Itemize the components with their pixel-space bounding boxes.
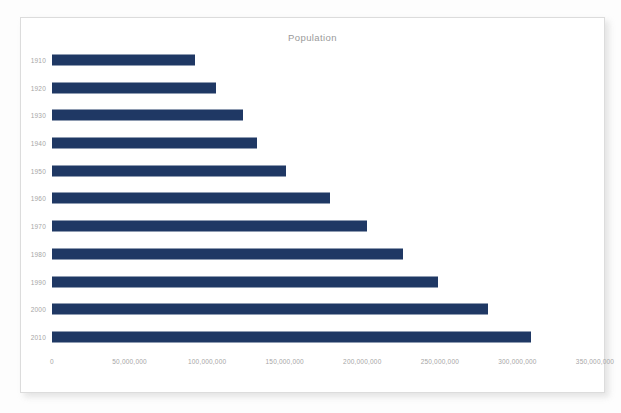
- y-axis-tick-label: 1990: [31, 278, 46, 285]
- bar[interactable]: [52, 82, 216, 93]
- y-axis-tick-label: 2000: [31, 306, 46, 313]
- x-axis-tick-label: 200,000,000: [343, 358, 381, 365]
- bar-row: 1980: [52, 240, 595, 268]
- bar-row: 1960: [52, 185, 595, 213]
- bar-row: 2010: [52, 323, 595, 351]
- y-axis-tick-label: 1960: [31, 195, 46, 202]
- bar[interactable]: [52, 54, 195, 65]
- y-axis-tick-label: 1940: [31, 140, 46, 147]
- x-axis-tick-label: 300,000,000: [498, 358, 536, 365]
- x-axis-tick-label: 150,000,000: [266, 358, 304, 365]
- y-axis-tick-label: 1980: [31, 250, 46, 257]
- x-axis-tick-label: 50,000,000: [112, 358, 147, 365]
- bar-row: 1940: [52, 129, 595, 157]
- bar-row: 1950: [52, 157, 595, 185]
- x-axis-tick-label: 100,000,000: [188, 358, 226, 365]
- bar-row: 1910: [52, 46, 595, 74]
- screenshot-root: Population 19101920193019401950196019701…: [0, 0, 621, 413]
- chart-title: Population: [21, 32, 604, 43]
- bar-row: 1930: [52, 101, 595, 129]
- bar[interactable]: [52, 193, 330, 204]
- y-axis-tick-label: 1920: [31, 84, 46, 91]
- bar-row: 1920: [52, 74, 595, 102]
- x-axis-tick-label: 250,000,000: [421, 358, 459, 365]
- x-axis: 050,000,000100,000,000150,000,000200,000…: [52, 358, 595, 378]
- chart-frame: Population 19101920193019401950196019701…: [20, 17, 605, 393]
- bar-row: 1990: [52, 268, 595, 296]
- y-axis-tick-label: 2010: [31, 334, 46, 341]
- x-axis-tick-label: 0: [50, 358, 54, 365]
- bar[interactable]: [52, 165, 286, 176]
- plot-area: 1910192019301940195019601970198019902000…: [52, 46, 595, 351]
- bar[interactable]: [52, 248, 403, 259]
- bar-row: 1970: [52, 212, 595, 240]
- y-axis-tick-label: 1930: [31, 112, 46, 119]
- bar[interactable]: [52, 221, 367, 232]
- x-axis-tick-label: 350,000,000: [576, 358, 614, 365]
- bar-row: 2000: [52, 296, 595, 324]
- bar[interactable]: [52, 138, 257, 149]
- bar[interactable]: [52, 304, 488, 315]
- y-axis-tick-label: 1950: [31, 167, 46, 174]
- y-axis-tick-label: 1970: [31, 223, 46, 230]
- y-axis-tick-label: 1910: [31, 56, 46, 63]
- bar[interactable]: [52, 110, 243, 121]
- bar[interactable]: [52, 276, 438, 287]
- bar[interactable]: [52, 332, 531, 343]
